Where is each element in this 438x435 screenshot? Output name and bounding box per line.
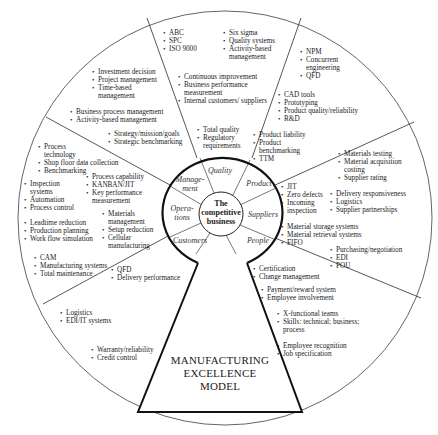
list-item: Prototyping	[278, 99, 358, 107]
list-item: Automation	[24, 196, 69, 204]
list-item: Continuous improvement	[178, 73, 273, 81]
list-item: Regulatory requirements	[197, 134, 247, 150]
model-title-line: MODEL	[170, 380, 270, 393]
list-item: Supplier rating	[338, 174, 418, 182]
list-item: Zero defects	[281, 191, 327, 199]
list-item: CAM	[34, 254, 107, 262]
block-operations-outer: Process technology Shop floor data colle…	[38, 143, 148, 175]
list-item: Inspection systems	[24, 180, 69, 196]
list-item: Investment decision	[92, 68, 152, 76]
center-line: The	[196, 199, 246, 208]
block-suppliers-mid: Delivery responsiveness Logistics Suppli…	[330, 190, 406, 214]
list-item: Credit control	[91, 354, 154, 362]
segment-customers: Customers	[168, 237, 212, 246]
block-management-mid: Business process management Activity-bas…	[70, 108, 163, 124]
block-people-inner: Certification Change management	[253, 265, 319, 281]
list-item: Activity-based management	[70, 116, 163, 124]
block-suppliers-inner2: Material storage systems Material retrie…	[281, 223, 362, 247]
list-item: EDI	[330, 254, 402, 262]
segment-management: Manage- ment	[170, 176, 210, 193]
list-item: Delivery performance	[111, 274, 180, 282]
segment-product: Product	[239, 180, 279, 189]
block-operations-mid: Process capability KANBAN/JIT Key perfor…	[86, 173, 166, 205]
list-item: Concurrent engineering	[300, 56, 355, 72]
block-customers-outer: Warranty/reliability Credit control	[91, 346, 154, 362]
segment-operations: Opera- tions	[164, 205, 200, 222]
list-item: Material retrieval systems	[281, 231, 362, 239]
list-item: EDI/IT systems	[60, 317, 111, 325]
list-item: Six sigma	[223, 29, 283, 37]
list-item: Job specification	[277, 350, 347, 358]
list-item: Quality systems	[223, 37, 283, 45]
list-item: SPC	[163, 37, 197, 45]
list-item: Material storage systems	[281, 223, 362, 231]
list-item: Total quality	[197, 126, 247, 134]
list-item: Delivery responsiveness	[330, 190, 406, 198]
segment-suppliers: Suppliers	[243, 211, 283, 220]
list-item: Leadtime reduction	[24, 219, 93, 227]
list-item: Production planning	[24, 227, 93, 235]
list-item: R&D	[278, 115, 358, 123]
center-label: The competitive business	[196, 199, 246, 226]
list-item: Materials testing	[338, 150, 418, 158]
list-item: Setup reduction	[102, 226, 154, 234]
block-customers-mid: Logistics EDI/IT systems	[60, 309, 111, 325]
block-operations-inner: Materials management Setup reduction Cel…	[102, 210, 154, 250]
list-item: Key performance measurement	[86, 189, 166, 205]
list-item: Employee involvement	[261, 294, 336, 302]
list-item: Supplier partnerships	[330, 206, 406, 214]
block-quality-mid: Continuous improvement Business performa…	[178, 73, 273, 105]
block-people-outer: Employee recognition Job specification	[277, 342, 347, 358]
block-product-outer: NPM Concurrent engineering QFD	[300, 48, 355, 80]
block-suppliers-inner: JIT Zero defects Incoming inspection	[281, 183, 327, 215]
list-item: QFD	[111, 266, 180, 274]
block-people-mid2: X-functional teams Skills: technical; bu…	[277, 310, 365, 334]
list-item: ABC	[163, 29, 197, 37]
list-item: Process capability	[86, 173, 166, 181]
block-people-mid: Payment/reward system Employee involveme…	[261, 286, 336, 302]
list-item: Work flow simulation	[24, 235, 93, 243]
list-item: NPM	[300, 48, 355, 56]
list-item: Product benchmarking	[253, 139, 305, 155]
block-product-inner: Product liability Product benchmarking T…	[253, 131, 305, 163]
list-item: ISO 9000	[163, 45, 197, 53]
center-line: competitive	[196, 208, 246, 217]
list-item: Activity-based management	[223, 45, 283, 61]
list-item: TTM	[253, 155, 305, 163]
block-product-mid: CAD tools Prototyping Product quality/re…	[278, 91, 358, 123]
list-item: JIT	[281, 183, 327, 191]
list-item: Product liability	[253, 131, 305, 139]
block-suppliers-outer2: Purchasing/negotiation EDI POU	[330, 246, 402, 270]
list-item: Manufacturing systems	[34, 262, 107, 270]
list-item: Purchasing/negotiation	[330, 246, 402, 254]
list-item: Skills: technical; business; process	[277, 318, 365, 334]
list-item: POU	[330, 262, 402, 270]
segment-quality: Quality	[200, 167, 240, 176]
list-item: Incoming inspection	[281, 199, 327, 215]
list-item: Logistics	[330, 198, 406, 206]
list-item: Cellular manufacturing	[102, 234, 154, 250]
list-item: QFD	[300, 72, 355, 80]
list-item: Process technology	[38, 143, 84, 159]
list-item: Shop floor data collection	[38, 159, 148, 167]
list-item: Time-based management	[92, 84, 152, 100]
list-item: Logistics	[60, 309, 111, 317]
list-item: Internal customers/ suppliers	[178, 97, 273, 105]
model-title-line: MANUFACTURING	[170, 354, 270, 367]
list-item: Business process management	[70, 108, 163, 116]
center-line: business	[196, 217, 246, 226]
list-item: Process control	[24, 204, 69, 212]
block-quality-inner: Total quality Regulatory requirements	[197, 126, 247, 150]
block-quality-outer-right: Six sigma Quality systems Activity-based…	[223, 29, 283, 61]
list-item: X-functional teams	[277, 310, 365, 318]
list-item: Change management	[253, 273, 319, 281]
list-item: Warranty/reliability	[91, 346, 154, 354]
block-customers-inner: QFD Delivery performance	[111, 266, 180, 282]
segment-people: People	[238, 237, 278, 246]
list-item: KANBAN/JIT	[86, 181, 166, 189]
list-item: CAD tools	[278, 91, 358, 99]
list-item: Business performance measurement	[178, 81, 273, 97]
list-item: Payment/reward system	[261, 286, 336, 294]
list-item: Total maintenance	[34, 270, 107, 278]
block-quality-outer-left: ABC SPC ISO 9000	[163, 29, 197, 53]
